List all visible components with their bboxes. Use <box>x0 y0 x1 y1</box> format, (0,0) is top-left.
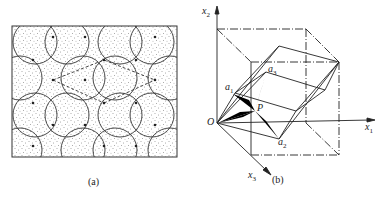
x1-axis-label: x1 <box>365 122 373 135</box>
a1-label: a1 <box>225 82 234 95</box>
a2-label: a2 <box>278 137 287 150</box>
x2-axis-label: x2 <box>202 6 210 19</box>
tiling-graphic <box>0 0 190 197</box>
panel-b-cube-diagram: x2 x1 x3 O P a1 a3 a2 (b) <box>190 0 382 197</box>
origin-label: O <box>207 117 214 127</box>
cube-graphic <box>190 0 382 197</box>
point-p-label: P <box>257 103 263 113</box>
x3-axis-label: x3 <box>248 170 256 183</box>
panel-a-tiling-diagram: (a) <box>0 0 190 197</box>
caption-b: (b) <box>272 174 284 185</box>
a3-label: a3 <box>268 64 277 77</box>
caption-a: (a) <box>88 176 99 187</box>
x3-axis <box>217 123 268 172</box>
